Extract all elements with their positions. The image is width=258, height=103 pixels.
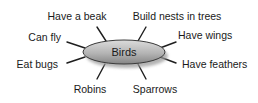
center-node-birds: Birds (83, 40, 168, 68)
birds-concept-map: Birds Have a beakBuild nests in treesCan… (0, 0, 258, 103)
connector-line-eat-bugs (67, 57, 85, 63)
concept-label-have-a-beak: Have a beak (48, 10, 108, 22)
concept-label-can-fly: Can fly (28, 31, 61, 43)
concept-label-robins: Robins (74, 83, 107, 95)
concept-label-have-feathers: Have feathers (182, 58, 247, 70)
concept-label-sparrows: Sparrows (133, 83, 177, 95)
concept-label-build-nests-in-trees: Build nests in trees (133, 10, 222, 22)
connector-line-can-fly (67, 42, 85, 48)
connector-line-robins (97, 64, 105, 79)
concept-label-have-wings: Have wings (178, 29, 232, 41)
connector-line-have-a-beak (97, 27, 106, 41)
connector-line-build-nests-in-trees (138, 27, 146, 41)
center-node-label: Birds (111, 46, 137, 58)
concept-label-eat-bugs: Eat bugs (17, 58, 58, 70)
